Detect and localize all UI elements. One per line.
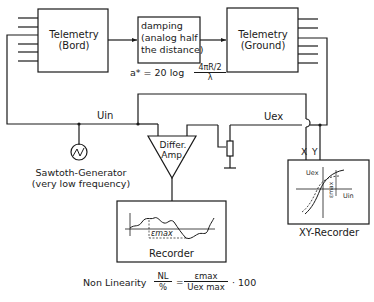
xy-epsilon-label: εmax [325, 182, 336, 198]
generator-label: Sawtoth-Generator (very low frequency) [29, 167, 133, 189]
damping-formula: a* = 20 log [130, 67, 184, 78]
damping-formula-lhs: a* = 20 log [130, 67, 184, 78]
eps-fraction: εmax Uex max [184, 271, 228, 292]
equals-sign: = [176, 277, 184, 288]
diff-amp-line1: Differ. [156, 140, 190, 150]
damping-label: damping (analog half the distance) [141, 20, 204, 56]
damping-line2: (analog half [141, 32, 204, 44]
nonlinearity-suffix: · 100 [232, 277, 256, 288]
nl-denominator: % [154, 282, 172, 292]
u-ex-label: Uex [264, 111, 283, 122]
nonlinearity-prefix: Non Linearity [83, 277, 146, 288]
y-port-label: Y [312, 147, 318, 158]
x-port-label: X [301, 147, 307, 158]
recorder-epsilon-label: εmax [151, 228, 173, 239]
telemetry-bord-line2: (Bord) [46, 40, 102, 51]
telemetry-ground-line1: Telemetry [234, 29, 292, 40]
damping-numerator: 4πR/2 [194, 63, 226, 73]
xy-x-axis-label: Uin [343, 191, 354, 202]
eps-numerator: εmax [184, 271, 228, 282]
damping-line3: the distance) [141, 44, 204, 56]
eps-denominator: Uex max [184, 282, 228, 292]
xy-recorder-label: XY-Recorder [284, 227, 374, 238]
telemetry-bord-line1: Telemetry [46, 29, 102, 40]
generator-line2: (very low frequency) [29, 178, 133, 189]
damping-fraction: 4πR/2 λ [194, 63, 226, 82]
recorder-label: Recorder [117, 248, 226, 259]
u-in-label: Uin [97, 110, 113, 121]
telemetry-ground-label: Telemetry (Ground) [234, 29, 292, 51]
telemetry-ground-line2: (Ground) [234, 40, 292, 51]
nl-numerator: NL [154, 271, 172, 282]
damping-denominator: λ [194, 73, 226, 82]
diff-amp-label: Differ. Amp. [156, 140, 190, 160]
nl-fraction: NL % [154, 271, 172, 292]
damping-line1: damping [141, 20, 204, 32]
generator-line1: Sawtoth-Generator [29, 167, 133, 178]
xy-y-axis-label: Uex [306, 168, 319, 179]
diff-amp-line2: Amp. [156, 150, 190, 160]
telemetry-bord-label: Telemetry (Bord) [46, 29, 102, 51]
